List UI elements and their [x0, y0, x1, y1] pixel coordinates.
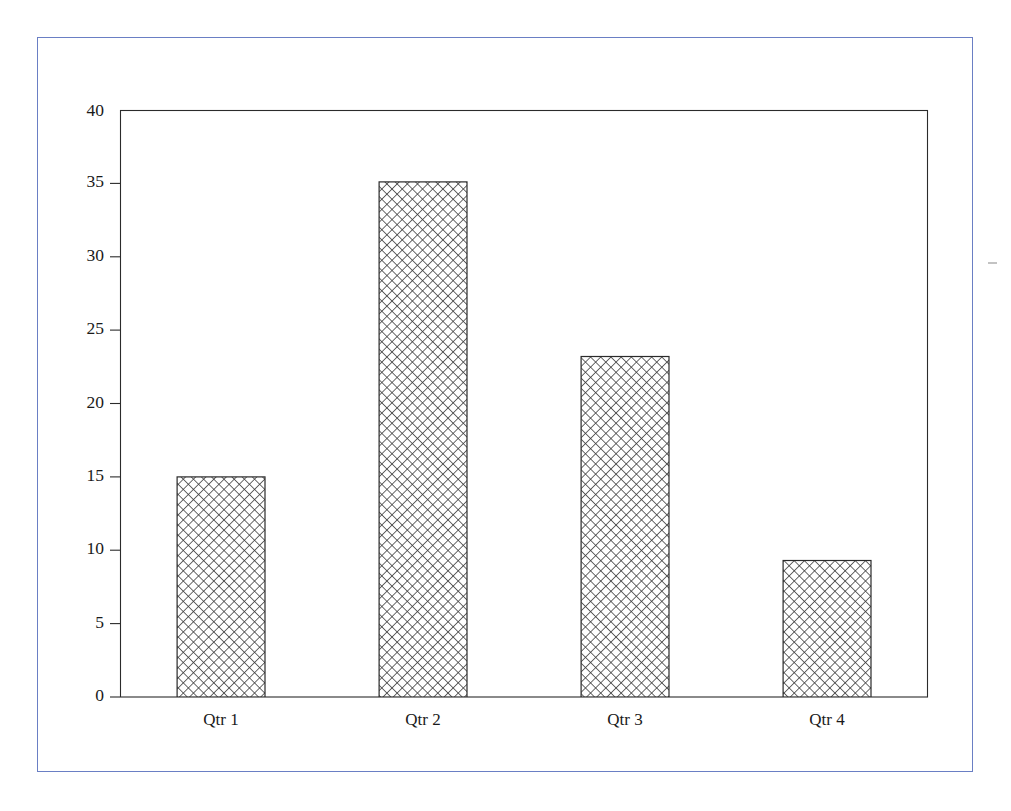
y-tick-label-10: 10: [87, 538, 105, 558]
x-tick-label-2: Qtr 2: [405, 710, 440, 729]
x-tick-label-4: Qtr 4: [809, 710, 845, 729]
y-tick-label-15: 15: [87, 465, 105, 485]
x-axis-labels: Qtr 1Qtr 2Qtr 3Qtr 4: [203, 710, 845, 729]
bars-group: [177, 182, 871, 697]
bar-qtr-4: [783, 561, 871, 698]
bar-qtr-1: [177, 477, 265, 697]
bar-qtr-3: [581, 357, 669, 698]
bar-chart: 0 5 10 15 20 25 30 35 40 Qtr 1Qtr 2Qtr 3…: [0, 0, 1011, 811]
y-axis-ticks: [110, 183, 120, 697]
x-tick-label-3: Qtr 3: [607, 710, 642, 729]
x-tick-label-1: Qtr 1: [203, 710, 238, 729]
y-tick-label-5: 5: [95, 612, 104, 632]
y-axis-labels: 0 5 10 15 20 25 30 35 40: [87, 100, 105, 706]
y-tick-label-40: 40: [87, 100, 105, 120]
bar-qtr-2: [379, 182, 467, 697]
y-tick-label-30: 30: [87, 245, 105, 265]
y-tick-label-25: 25: [87, 318, 105, 338]
y-tick-label-35: 35: [87, 171, 105, 191]
y-tick-label-20: 20: [87, 392, 105, 412]
y-tick-label-0: 0: [95, 685, 104, 705]
